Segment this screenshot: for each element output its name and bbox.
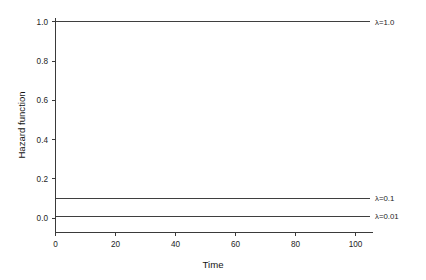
x-tick-label-4: 80 xyxy=(291,240,301,249)
series-label-lambda-1.0: λ=1.0 xyxy=(375,18,395,27)
y-tick-label-0: 0.0 xyxy=(37,214,49,223)
x-tick-label-1: 20 xyxy=(111,240,121,249)
x-tick-label-0: 0 xyxy=(53,240,58,249)
chart-background xyxy=(0,0,426,280)
chart-canvas: 0.0 0.2 0.4 0.6 0.8 1.0 0 20 40 60 80 10… xyxy=(0,0,426,280)
x-axis-title: Time xyxy=(203,259,224,270)
series-label-lambda-0.1: λ=0.1 xyxy=(375,194,394,203)
y-tick-label-2: 0.4 xyxy=(37,136,49,145)
y-tick-label-5: 1.0 xyxy=(37,18,49,27)
y-tick-label-4: 0.8 xyxy=(37,57,49,66)
y-tick-label-3: 0.6 xyxy=(37,96,49,105)
x-tick-label-3: 60 xyxy=(231,240,241,249)
hazard-function-chart: 0.0 0.2 0.4 0.6 0.8 1.0 0 20 40 60 80 10… xyxy=(0,0,426,280)
y-axis-title: Hazard function xyxy=(16,91,27,158)
x-tick-label-5: 100 xyxy=(349,240,363,249)
series-label-lambda-0.01: λ=0.01 xyxy=(375,212,399,221)
x-tick-label-2: 40 xyxy=(171,240,181,249)
y-tick-label-1: 0.2 xyxy=(37,175,49,184)
